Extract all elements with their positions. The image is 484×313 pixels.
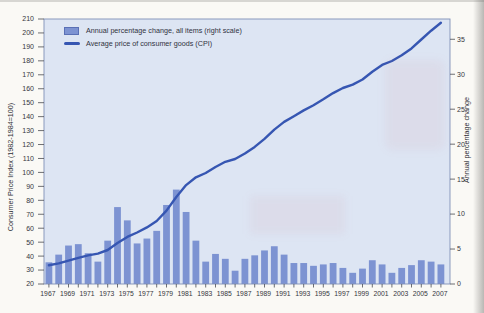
bar-1980 bbox=[173, 190, 180, 284]
bar-1981 bbox=[183, 212, 190, 284]
left-tick-label-120: 120 bbox=[22, 141, 34, 148]
left-tick-label-160: 160 bbox=[22, 85, 34, 92]
bar-1989 bbox=[261, 250, 268, 284]
bar-1984 bbox=[212, 254, 219, 284]
left-tick-label-100: 100 bbox=[22, 169, 34, 176]
x-tick-label-1987: 1987 bbox=[236, 290, 251, 297]
x-tick-label-2005: 2005 bbox=[413, 290, 428, 297]
bar-1982 bbox=[193, 241, 200, 284]
bar-1996 bbox=[330, 263, 337, 284]
x-tick-label-1995: 1995 bbox=[315, 290, 330, 297]
x-tick-label-1989: 1989 bbox=[256, 290, 271, 297]
bar-1985 bbox=[222, 259, 229, 284]
left-tick-label-180: 180 bbox=[22, 57, 34, 64]
bar-2004 bbox=[408, 265, 415, 284]
left-tick-label-60: 60 bbox=[26, 225, 34, 232]
bar-1979 bbox=[163, 205, 170, 284]
left-axis-title: Consumer Price Index (1982-1984=100) bbox=[6, 103, 15, 231]
bar-2003 bbox=[398, 268, 405, 284]
bar-1999 bbox=[359, 269, 366, 284]
bar-2005 bbox=[418, 260, 425, 284]
bar-1992 bbox=[291, 263, 298, 284]
bar-1969 bbox=[65, 246, 72, 284]
x-tick-label-1979: 1979 bbox=[158, 290, 173, 297]
bar-2000 bbox=[369, 260, 376, 284]
x-tick-label-1997: 1997 bbox=[334, 290, 349, 297]
x-tick-label-2001: 2001 bbox=[374, 290, 389, 297]
bar-1978 bbox=[153, 231, 160, 284]
bar-1988 bbox=[251, 255, 258, 284]
left-tick-label-210: 210 bbox=[22, 15, 34, 22]
left-tick-label-50: 50 bbox=[26, 239, 34, 246]
legend-item-bars: Annual percentage change, all items (rig… bbox=[64, 26, 242, 35]
legend-bar-label: Annual percentage change, all items (rig… bbox=[86, 26, 242, 35]
x-tick-label-2003: 2003 bbox=[393, 290, 408, 297]
legend-line-label: Average price of consumer goods (CPI) bbox=[86, 39, 212, 48]
left-tick-label-130: 130 bbox=[22, 127, 34, 134]
right-tick-label-0: 0 bbox=[457, 280, 461, 287]
chart-legend: Annual percentage change, all items (rig… bbox=[64, 26, 242, 48]
bar-1993 bbox=[300, 263, 307, 284]
x-tick-label-1981: 1981 bbox=[178, 290, 193, 297]
bar-1991 bbox=[281, 255, 288, 284]
right-axis-title: Annual percentage change bbox=[462, 97, 471, 183]
bar-2006 bbox=[428, 262, 435, 284]
bar-1994 bbox=[310, 266, 317, 284]
x-tick-label-1993: 1993 bbox=[295, 290, 310, 297]
left-tick-label-110: 110 bbox=[23, 155, 34, 162]
bar-1975 bbox=[124, 220, 131, 284]
x-tick-label-1985: 1985 bbox=[217, 290, 232, 297]
bar-1986 bbox=[232, 271, 239, 284]
x-tick-label-1991: 1991 bbox=[276, 290, 291, 297]
x-tick-label-2007: 2007 bbox=[432, 290, 447, 297]
x-tick-label-1975: 1975 bbox=[119, 290, 134, 297]
bar-1970 bbox=[75, 244, 82, 284]
right-tick-label-35: 35 bbox=[457, 36, 465, 43]
left-tick-label-30: 30 bbox=[26, 266, 34, 273]
bar-1972 bbox=[95, 262, 102, 284]
bar-1997 bbox=[340, 268, 347, 284]
x-tick-label-1967: 1967 bbox=[40, 290, 55, 297]
bar-1987 bbox=[242, 259, 249, 284]
right-tick-label-30: 30 bbox=[457, 71, 465, 78]
bar-1977 bbox=[144, 239, 151, 284]
left-tick-label-150: 150 bbox=[22, 99, 34, 106]
bar-1968 bbox=[55, 255, 62, 284]
x-tick-label-1999: 1999 bbox=[354, 290, 369, 297]
legend-item-line: Average price of consumer goods (CPI) bbox=[64, 39, 242, 48]
x-tick-label-1973: 1973 bbox=[99, 290, 114, 297]
x-tick-label-1977: 1977 bbox=[138, 290, 153, 297]
bar-1976 bbox=[134, 243, 141, 284]
left-tick-label-140: 140 bbox=[22, 113, 34, 120]
right-tick-label-5: 5 bbox=[457, 245, 461, 252]
left-tick-label-190: 190 bbox=[22, 43, 34, 50]
right-tick-label-10: 10 bbox=[457, 210, 465, 217]
x-tick-label-1971: 1971 bbox=[80, 290, 95, 297]
left-tick-label-90: 90 bbox=[26, 183, 34, 190]
left-tick-label-80: 80 bbox=[26, 197, 34, 204]
x-tick-label-1969: 1969 bbox=[60, 290, 75, 297]
x-tick-label-1983: 1983 bbox=[197, 290, 212, 297]
bar-1990 bbox=[271, 246, 278, 284]
bar-1995 bbox=[320, 264, 327, 284]
left-tick-label-170: 170 bbox=[22, 71, 34, 78]
left-tick-label-200: 200 bbox=[22, 29, 34, 36]
left-tick-label-40: 40 bbox=[26, 253, 34, 260]
scanned-page: 2030405060708090100110120130140150160170… bbox=[0, 0, 484, 313]
bar-1998 bbox=[349, 273, 356, 284]
bar-1983 bbox=[202, 262, 209, 284]
bar-2001 bbox=[379, 264, 386, 284]
left-tick-label-20: 20 bbox=[26, 280, 34, 287]
left-tick-label-70: 70 bbox=[26, 211, 34, 218]
bar-2007 bbox=[438, 264, 445, 284]
bar-2002 bbox=[389, 273, 396, 284]
legend-line-swatch-icon bbox=[64, 42, 80, 45]
bar-1971 bbox=[85, 253, 92, 284]
legend-bar-swatch-icon bbox=[64, 27, 79, 35]
